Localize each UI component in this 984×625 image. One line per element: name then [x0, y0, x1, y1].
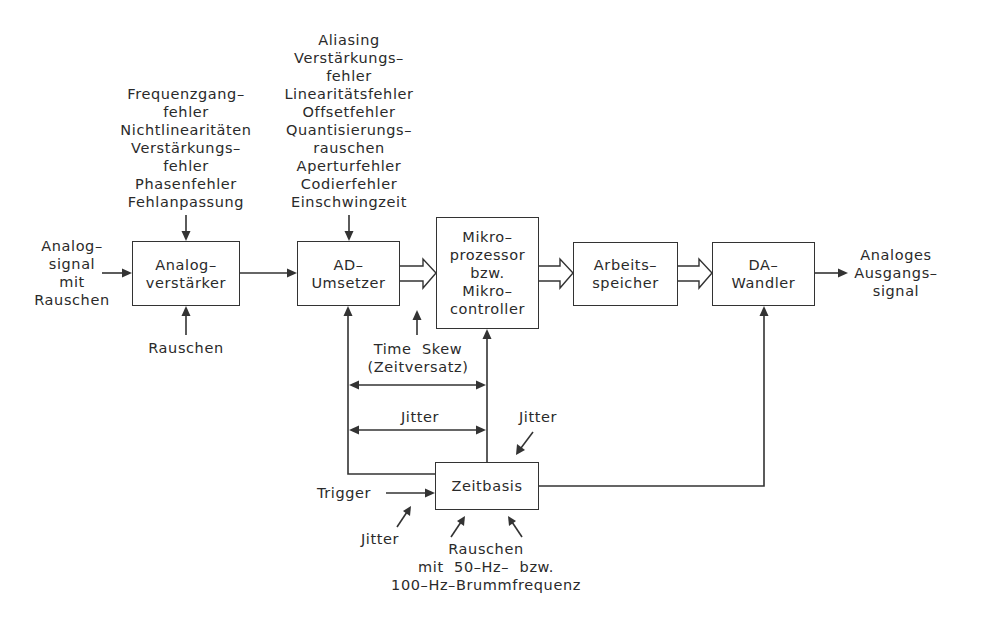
- block-label: prozessor: [450, 246, 526, 264]
- label-line: signal: [846, 282, 946, 300]
- label-line: Einschwingzeit: [268, 193, 430, 211]
- label-line: Ausgangs–: [846, 264, 946, 282]
- label-line: Rauschen: [24, 291, 120, 309]
- block-label: Mikro–: [462, 228, 512, 246]
- label-line: Aliasing: [268, 31, 430, 49]
- label-line: fehler: [268, 67, 430, 85]
- adc-errors-label: Aliasing Verstärkungs– fehler Linearität…: [268, 31, 430, 211]
- trigger-label: Trigger: [306, 484, 382, 502]
- label-line: mit: [24, 273, 120, 291]
- label-line: Frequenzgang–: [116, 85, 256, 103]
- label-line: Trigger: [306, 484, 382, 502]
- block-label: speicher: [592, 274, 659, 292]
- amplifier-errors-label: Frequenzgang– fehler Nichtlinearitäten V…: [116, 85, 256, 211]
- block-label: Zeitbasis: [451, 477, 522, 495]
- label-line: Rauschen: [136, 339, 236, 357]
- block-label: AD–: [333, 256, 363, 274]
- label-line: Jitter: [508, 408, 568, 426]
- block-label: controller: [450, 300, 525, 318]
- label-line: Fehlanpassung: [116, 193, 256, 211]
- label-line: mit 50–Hz– bzw.: [366, 558, 606, 576]
- label-line: Aperturfehler: [268, 157, 430, 175]
- microprocessor-block: Mikro– prozessor bzw. Mikro– controller: [436, 217, 539, 329]
- da-converter-block: DA– Wandler: [712, 242, 815, 306]
- label-line: Quantisierungs–: [268, 121, 430, 139]
- label-line: 100–Hz–Brummfrequenz: [366, 576, 606, 594]
- label-line: (Zeitversatz): [352, 358, 484, 376]
- label-line: Offsetfehler: [268, 103, 430, 121]
- arrow-head: [122, 269, 132, 278]
- block-label: DA–: [749, 256, 779, 274]
- block-label: Wandler: [732, 274, 796, 292]
- memory-block: Arbeits– speicher: [573, 242, 678, 306]
- time-skew-label: Time Skew (Zeitversatz): [352, 340, 484, 376]
- label-line: rauschen: [268, 139, 430, 157]
- jitter-timebase-label: Jitter: [508, 408, 568, 426]
- label-line: Phasenfehler: [116, 175, 256, 193]
- label-line: Verstärkungs–: [268, 49, 430, 67]
- block-label: Analog–: [155, 256, 217, 274]
- amplifier-noise-label: Rauschen: [136, 339, 236, 357]
- label-line: fehler: [116, 103, 256, 121]
- output-signal-label: Analoges Ausgangs– signal: [846, 246, 946, 300]
- input-signal-label: Analog– signal mit Rauschen: [24, 237, 120, 309]
- label-line: signal: [24, 255, 120, 273]
- label-line: Time Skew: [352, 340, 484, 358]
- label-line: Linearitätsfehler: [268, 85, 430, 103]
- label-line: Jitter: [380, 408, 460, 426]
- label-line: Analoges: [846, 246, 946, 264]
- block-label: Umsetzer: [311, 274, 385, 292]
- label-line: Rauschen: [366, 540, 606, 558]
- label-line: Codierfehler: [268, 175, 430, 193]
- block-label: verstärker: [146, 274, 226, 292]
- block-label: Arbeits–: [594, 256, 657, 274]
- label-line: Nichtlinearitäten: [116, 121, 256, 139]
- block-label: bzw.: [470, 264, 504, 282]
- label-line: Analog–: [24, 237, 120, 255]
- timebase-block: Zeitbasis: [435, 462, 539, 510]
- block-label: Mikro–: [462, 282, 512, 300]
- label-line: Verstärkungs–: [116, 139, 256, 157]
- analog-amplifier-block: Analog– verstärker: [132, 241, 240, 306]
- jitter-between-label: Jitter: [380, 408, 460, 426]
- ad-converter-block: AD– Umsetzer: [297, 241, 400, 306]
- label-line: fehler: [116, 157, 256, 175]
- timebase-noise-label: Rauschen mit 50–Hz– bzw. 100–Hz–Brummfre…: [366, 540, 606, 594]
